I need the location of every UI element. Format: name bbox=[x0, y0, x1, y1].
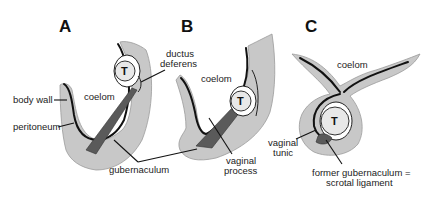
panel-b-testis-label: T bbox=[237, 95, 244, 107]
peritoneum-label: peritoneum bbox=[13, 121, 61, 132]
body-wall-label: body wall bbox=[13, 94, 53, 105]
former-gubernaculum-label-line2: scrotal ligament bbox=[326, 177, 393, 188]
panel-b-letter: B bbox=[181, 17, 193, 36]
vaginal-process-label-line2: process bbox=[224, 165, 258, 176]
panel-a: A T coelom bbox=[59, 17, 152, 170]
gubernaculum-label: gubernaculum bbox=[109, 164, 169, 175]
testis-descent-diagram: A T coelom body wall peritoneum ductus d… bbox=[0, 0, 425, 197]
panel-c-coelom-label: coelom bbox=[337, 59, 368, 70]
panel-a-coelom-label: coelom bbox=[84, 91, 115, 102]
panel-a-body-wall bbox=[60, 42, 152, 170]
panel-c-letter: C bbox=[305, 17, 317, 36]
panel-a-letter: A bbox=[59, 17, 71, 36]
ductus-deferens-label-line2: deferens bbox=[160, 58, 197, 69]
panel-c-testis-label: T bbox=[331, 115, 338, 127]
panel-c: C T coelom bbox=[292, 17, 420, 155]
panel-b: B T coelom bbox=[176, 17, 275, 160]
panel-b-coelom-label: coelom bbox=[201, 73, 232, 84]
panel-a-testis-label: T bbox=[121, 65, 128, 77]
vaginal-tunic-label-line2: tunic bbox=[273, 147, 293, 158]
